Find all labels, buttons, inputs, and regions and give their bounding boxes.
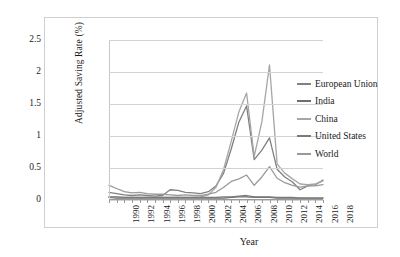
x-tick-label: 1998 — [192, 205, 202, 223]
x-tick-mark — [132, 200, 133, 203]
gridline — [109, 168, 323, 169]
x-tick-mark — [140, 200, 141, 203]
y-tick-label: 1.5 — [5, 99, 41, 109]
x-tick-label: 2004 — [238, 205, 248, 223]
legend-item[interactable]: India — [297, 93, 393, 111]
x-tick-label: 2016 — [330, 205, 340, 223]
legend-swatch — [297, 83, 311, 85]
legend-item[interactable]: European Union — [297, 75, 393, 93]
x-tick-mark — [315, 200, 316, 203]
x-tick-mark — [193, 200, 194, 203]
x-tick-mark — [117, 200, 118, 203]
legend-item[interactable]: World — [297, 145, 393, 163]
x-tick-label: 2008 — [269, 205, 279, 223]
plot-frame — [109, 40, 323, 200]
x-tick-label: 2010 — [284, 205, 294, 223]
y-tick-label: 0.5 — [5, 163, 41, 173]
x-tick-mark — [270, 200, 271, 203]
x-tick-label: 1992 — [146, 205, 156, 223]
x-tick-mark — [247, 200, 248, 203]
x-tick-mark — [300, 200, 301, 203]
legend-swatch — [297, 135, 311, 137]
legend-label: European Union — [315, 79, 378, 89]
x-tick-mark — [277, 200, 278, 203]
x-tick-mark — [231, 200, 232, 203]
legend-label: China — [315, 114, 338, 124]
x-tick-mark — [216, 200, 217, 203]
gridline — [109, 40, 323, 41]
x-tick-mark — [147, 200, 148, 203]
y-tick-label: 1 — [5, 131, 41, 141]
gridline — [109, 72, 323, 73]
x-tick-label: 2002 — [223, 205, 233, 223]
y-tick-label: 2.5 — [5, 35, 41, 45]
y-tick-label: 2 — [5, 67, 41, 77]
x-tick-label: 1990 — [131, 205, 141, 223]
legend-label: World — [315, 149, 339, 159]
x-tick-mark — [285, 200, 286, 203]
x-tick-label: 1996 — [177, 205, 187, 223]
x-tick-mark — [178, 200, 179, 203]
chart-legend: European UnionIndiaChinaUnited StatesWor… — [297, 75, 393, 163]
x-tick-mark — [185, 200, 186, 203]
legend-item[interactable]: United States — [297, 128, 393, 146]
x-tick-mark — [292, 200, 293, 203]
x-tick-label: 1994 — [162, 205, 172, 223]
legend-swatch — [297, 153, 311, 155]
legend-swatch — [297, 100, 311, 102]
legend-item[interactable]: China — [297, 110, 393, 128]
x-tick-mark — [163, 200, 164, 203]
x-tick-mark — [208, 200, 209, 203]
x-tick-mark — [124, 200, 125, 203]
x-tick-label: 2014 — [314, 205, 324, 223]
legend-swatch — [297, 118, 311, 120]
legend-label: India — [315, 96, 335, 106]
x-tick-mark — [254, 200, 255, 203]
x-tick-mark — [308, 200, 309, 203]
x-tick-mark — [262, 200, 263, 203]
x-tick-label: 2006 — [253, 205, 263, 223]
x-axis-title: Year — [109, 236, 389, 247]
gridline — [109, 104, 323, 105]
x-tick-mark — [155, 200, 156, 203]
x-tick-mark — [323, 200, 324, 203]
x-tick-mark — [239, 200, 240, 203]
x-tick-mark — [109, 200, 110, 203]
x-tick-label: 2012 — [299, 205, 309, 223]
y-axis-title: Adjusted Saving Rate (%) — [74, 13, 88, 133]
x-tick-mark — [201, 200, 202, 203]
y-tick-label: 0 — [5, 195, 41, 205]
x-tick-label: 2000 — [207, 205, 217, 223]
gridline — [109, 136, 323, 137]
x-tick-mark — [170, 200, 171, 203]
x-tick-mark — [224, 200, 225, 203]
plot-area: 00.511.522.5 199019921994199619982000200… — [109, 40, 323, 200]
legend-label: United States — [315, 131, 366, 141]
chart-figure: Adjusted Saving Rate (%) 00.511.522.5 19… — [44, 17, 378, 228]
x-tick-label: 2018 — [345, 205, 355, 223]
